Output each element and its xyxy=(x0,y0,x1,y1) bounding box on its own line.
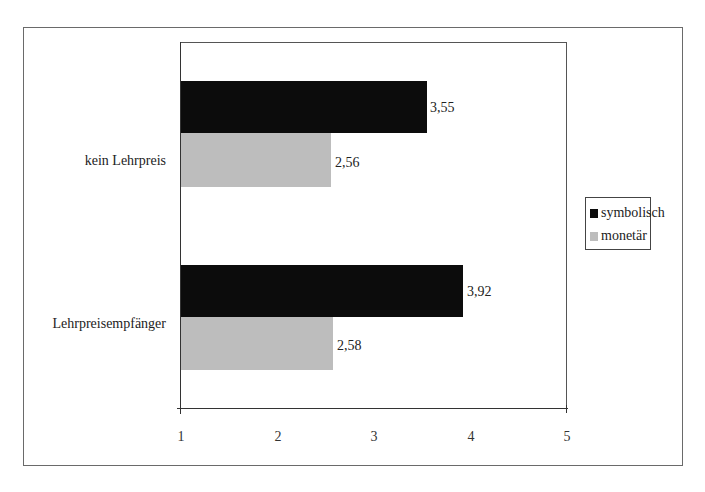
bar-lehrpreisempfaenger-symbolisch xyxy=(181,265,463,317)
x-tick-label: 5 xyxy=(557,429,577,445)
legend: symbolisch monetär xyxy=(585,197,651,250)
x-axis xyxy=(177,408,568,409)
category-label: kein Lehrpreis xyxy=(16,153,166,169)
legend-swatch-icon xyxy=(590,232,598,241)
legend-item-monetaer: monetär xyxy=(590,228,647,244)
bar-lehrpreisempfaenger-monetaer xyxy=(181,317,333,370)
value-label: 3,55 xyxy=(430,100,455,116)
legend-item-symbolisch: symbolisch xyxy=(590,205,665,221)
category-label: Lehrpreisempfänger xyxy=(16,316,166,332)
value-label: 2,58 xyxy=(337,338,362,354)
x-tick-label: 3 xyxy=(364,429,384,445)
bar-kein-lehrpreis-monetaer xyxy=(181,133,331,187)
x-tick xyxy=(180,405,181,413)
value-label: 2,56 xyxy=(335,155,360,171)
value-label: 3,92 xyxy=(467,284,492,300)
x-tick xyxy=(566,405,567,413)
bar-kein-lehrpreis-symbolisch xyxy=(181,81,427,133)
x-tick-label: 4 xyxy=(461,429,481,445)
x-tick-label: 1 xyxy=(171,429,191,445)
legend-swatch-icon xyxy=(590,209,598,218)
x-tick-label: 2 xyxy=(268,429,288,445)
legend-label: symbolisch xyxy=(601,205,665,221)
legend-label: monetär xyxy=(601,228,647,244)
